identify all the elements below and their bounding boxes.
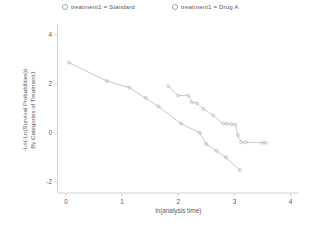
y-tick-label: 0 xyxy=(48,129,52,136)
x-axis-title: ln(analysis time) xyxy=(155,207,201,215)
data-point-marker xyxy=(67,61,70,64)
axis-group xyxy=(54,24,299,196)
series-group xyxy=(67,61,267,172)
x-tick-label: 4 xyxy=(289,198,293,205)
x-tick-label: 2 xyxy=(176,198,180,205)
y-tick-label: 2 xyxy=(48,80,52,87)
axis-label-group: 01234420-2ln(analysis time) xyxy=(46,31,292,215)
series-polyline xyxy=(168,86,266,143)
x-tick-label: 0 xyxy=(64,198,68,205)
y-tick-label: -2 xyxy=(46,178,52,185)
plot-area: 01234420-2ln(analysis time) xyxy=(0,0,310,232)
data-series-drug-a xyxy=(167,84,268,144)
x-tick-label: 3 xyxy=(233,198,237,205)
x-tick-label: 1 xyxy=(120,198,124,205)
survival-plot-figure: treatment1 = Standard treatment1 = Drug … xyxy=(0,0,310,232)
y-tick-label: 4 xyxy=(48,31,52,38)
data-series-standard xyxy=(67,61,241,172)
